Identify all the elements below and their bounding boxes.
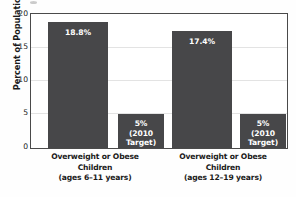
- y-axis-ticks: 20 15 10 5 0: [12, 0, 28, 197]
- bar-label-group2-target: 5% (2010 Target): [240, 119, 286, 148]
- y-tick-20: 20: [13, 10, 28, 18]
- plot-area: 18.8% 5% (2010 Target) 17.4% 5% (2: [30, 13, 288, 149]
- bar-group1-actual[interactable]: 18.8%: [48, 22, 108, 148]
- x-category-ages-6-11: Overweight or Obese Children (ages 6–11 …: [30, 152, 160, 184]
- x-axis-labels: Overweight or Obese Children (ages 6–11 …: [30, 152, 288, 197]
- y-tick-15: 15: [13, 43, 28, 51]
- bar-label-group1-actual: 18.8%: [48, 28, 108, 38]
- y-tick-0: 0: [13, 143, 28, 151]
- bar-label-group1-target: 5% (2010 Target): [118, 119, 164, 148]
- bar-group2-actual[interactable]: 17.4%: [172, 31, 232, 148]
- y-tick-5: 5: [13, 109, 28, 117]
- y-tick-10: 10: [13, 76, 28, 84]
- scan-artifact: [30, 1, 37, 4]
- x-category-ages-12-19: Overweight or Obese Children (ages 12–19…: [158, 152, 288, 184]
- bar-group1-target[interactable]: 5% (2010 Target): [118, 114, 164, 148]
- bar-chart: Percent of Population 20 15 10 5 0 18.8%…: [0, 0, 296, 197]
- bar-group2-target[interactable]: 5% (2010 Target): [240, 114, 286, 148]
- bar-label-group2-actual: 17.4%: [172, 37, 232, 47]
- plot-inner: 18.8% 5% (2010 Target) 17.4% 5% (2: [31, 14, 287, 148]
